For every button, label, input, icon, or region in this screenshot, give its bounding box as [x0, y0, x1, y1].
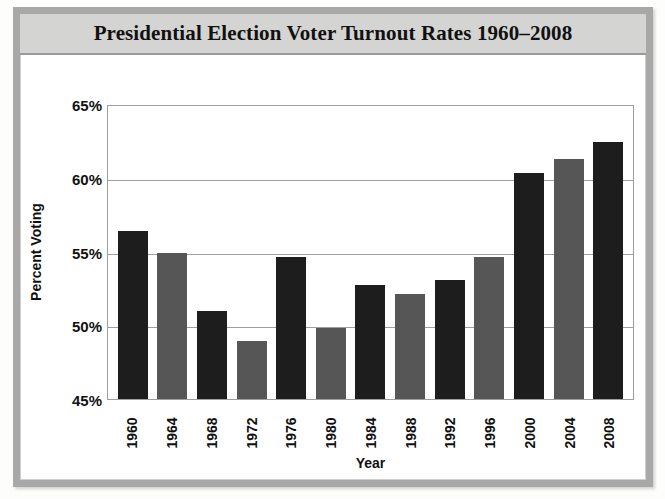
bar[interactable] [474, 257, 504, 399]
y-axis-tick-label: 55% [72, 244, 102, 261]
bar-slot [469, 106, 509, 399]
chart-figure: Presidential Election Voter Turnout Rate… [0, 0, 665, 499]
bar-slot [549, 106, 589, 399]
bar[interactable] [157, 253, 187, 399]
y-axis-tick-label: 65% [72, 97, 102, 114]
bar[interactable] [316, 328, 346, 399]
bar-slot [390, 106, 430, 399]
bar-slot [192, 106, 232, 399]
x-axis-tick-label: 1968 [203, 417, 219, 448]
x-axis-tick-label: 1976 [283, 417, 299, 448]
chart-title: Presidential Election Voter Turnout Rate… [94, 21, 573, 46]
bar[interactable] [276, 257, 306, 399]
plot-area [107, 105, 634, 400]
bar-slot [271, 106, 311, 399]
bar[interactable] [554, 159, 584, 399]
plot-wrapper: Percent Voting 65%60%55%50%45% 196019641… [20, 57, 646, 481]
bar-slot [311, 106, 351, 399]
y-axis-tick-label: 60% [72, 170, 102, 187]
bar-slot [153, 106, 193, 399]
bar[interactable] [435, 280, 465, 399]
bar[interactable] [593, 142, 623, 399]
x-axis-tick-label: 1992 [442, 417, 458, 448]
y-axis-tick-label: 50% [72, 318, 102, 335]
x-axis-tick-label: 1988 [402, 417, 418, 448]
bar[interactable] [355, 285, 385, 399]
bar-slot [430, 106, 470, 399]
y-axis-ticks: 65%60%55%50%45% [48, 57, 106, 401]
bar[interactable] [118, 231, 148, 399]
y-axis-tick-label: 45% [72, 392, 102, 409]
bar[interactable] [395, 294, 425, 399]
bar-slot [588, 106, 628, 399]
y-axis-label-text: Percent Voting [28, 203, 44, 301]
x-axis-tick-label: 2000 [522, 417, 538, 448]
bar-group [108, 106, 633, 399]
x-axis-tick-label: 1960 [124, 417, 140, 448]
chart-frame: Presidential Election Voter Turnout Rate… [13, 7, 653, 487]
bar[interactable] [514, 173, 544, 399]
bar-slot [509, 106, 549, 399]
title-band: Presidential Election Voter Turnout Rate… [20, 14, 646, 55]
x-axis-tick-label: 2004 [561, 417, 577, 448]
bar[interactable] [237, 341, 267, 399]
x-axis-tick-label: 1972 [243, 417, 259, 448]
x-axis-label: Year [107, 455, 634, 471]
x-axis-tick-label: 1984 [362, 417, 378, 448]
bar-slot [232, 106, 272, 399]
x-axis-tick-label: 1964 [164, 417, 180, 448]
x-axis-tick-label: 2008 [601, 417, 617, 448]
bar-slot [351, 106, 391, 399]
x-axis-tick-label: 1980 [323, 417, 339, 448]
bar-slot [113, 106, 153, 399]
bar[interactable] [197, 311, 227, 400]
y-axis-label: Percent Voting [26, 157, 46, 347]
x-axis-tick-label: 1996 [482, 417, 498, 448]
